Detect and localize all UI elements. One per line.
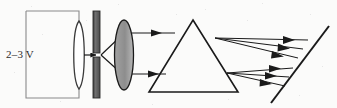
- converging-lens: [115, 20, 134, 90]
- slit-bar-upper: [93, 11, 100, 53]
- prism-dispersion-figure: 2–3 V: [0, 0, 337, 108]
- voltage-label: 2–3 V: [6, 48, 34, 60]
- diagram-canvas: [0, 0, 337, 108]
- slit-bar-lower: [93, 57, 100, 98]
- lamp-bulb: [74, 21, 85, 89]
- lamp-envelope: [74, 21, 85, 89]
- lens-body: [115, 20, 134, 90]
